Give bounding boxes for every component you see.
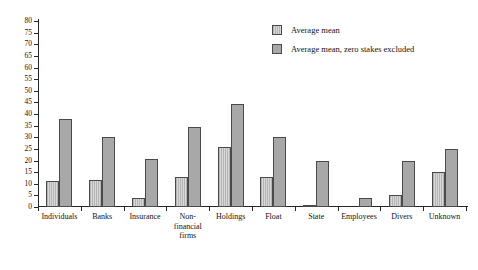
x-tick-mark — [209, 207, 210, 211]
y-tick-label: 35 — [4, 122, 32, 130]
x-category-label: Unknown — [417, 212, 472, 222]
bar — [231, 104, 244, 207]
y-tick-label: 65 — [4, 52, 32, 60]
legend-label-series-0: Average mean — [291, 25, 340, 35]
x-tick-mark — [295, 207, 296, 211]
bar — [46, 181, 59, 207]
y-tick-label: 75 — [4, 29, 32, 37]
bar — [389, 195, 402, 207]
y-tick-label: 10 — [4, 180, 32, 188]
legend-label-series-1: Average mean, zero stakes excluded — [291, 44, 414, 54]
y-tick-label: 55 — [4, 75, 32, 83]
x-tick-mark — [423, 207, 424, 211]
legend-swatch-icon-series-1 — [272, 44, 282, 54]
y-tick-label: 25 — [4, 145, 32, 153]
bar — [445, 149, 458, 207]
x-tick-mark — [252, 207, 253, 211]
x-tick-mark — [38, 207, 39, 211]
y-tick-label: 15 — [4, 168, 32, 176]
y-tick-label: 0 — [4, 203, 32, 211]
y-tick-label: 45 — [4, 98, 32, 106]
bar — [188, 127, 201, 207]
bar — [303, 205, 316, 207]
y-tick-label: 30 — [4, 133, 32, 141]
bar — [432, 172, 445, 207]
bar — [145, 159, 158, 207]
y-tick-label: 60 — [4, 64, 32, 72]
bar — [218, 147, 231, 207]
x-tick-mark — [124, 207, 125, 211]
x-tick-mark — [81, 207, 82, 211]
chart-legend: Average mean Average mean, zero stakes e… — [272, 20, 472, 58]
bar — [316, 161, 329, 208]
bar — [175, 177, 188, 207]
bar — [402, 161, 415, 208]
y-tick-label: 20 — [4, 157, 32, 165]
legend-swatch-icon-series-0 — [272, 25, 282, 35]
y-tick-label: 70 — [4, 40, 32, 48]
x-tick-mark — [380, 207, 381, 211]
bar-chart: 05101520253035404550556065707580 Individ… — [0, 0, 478, 270]
y-tick-label: 5 — [4, 191, 32, 199]
x-tick-mark — [166, 207, 167, 211]
bar — [132, 198, 145, 207]
legend-item-average-mean: Average mean — [272, 20, 472, 39]
bar — [102, 137, 115, 207]
bar — [260, 177, 273, 207]
x-tick-mark — [338, 207, 339, 211]
bar — [359, 198, 372, 207]
y-tick-label: 40 — [4, 110, 32, 118]
bar — [59, 119, 72, 207]
bar — [273, 137, 286, 207]
y-tick-label: 50 — [4, 87, 32, 95]
legend-item-average-mean-zero-stakes-excluded: Average mean, zero stakes excluded — [272, 39, 472, 58]
bar — [89, 180, 102, 207]
x-tick-mark — [466, 207, 467, 211]
y-tick-label: 80 — [4, 17, 32, 25]
